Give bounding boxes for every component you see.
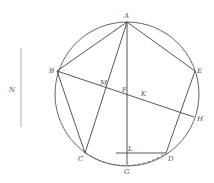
label-l: L <box>127 145 133 153</box>
geometry-diagram: A B E M F K H C L D G N <box>0 0 214 183</box>
segment-ab <box>57 22 127 71</box>
label-h: H <box>196 115 204 123</box>
label-e: E <box>196 67 202 75</box>
segment-ae <box>127 22 195 71</box>
label-c: C <box>78 155 84 163</box>
label-a: A <box>123 12 129 20</box>
label-n: N <box>8 86 16 94</box>
segment-bh <box>57 71 194 117</box>
segment-bc <box>57 71 85 153</box>
label-b: B <box>48 67 54 75</box>
label-m: M <box>99 79 108 87</box>
label-k: K <box>140 90 147 98</box>
label-d: D <box>167 155 174 163</box>
label-g: G <box>124 168 130 176</box>
